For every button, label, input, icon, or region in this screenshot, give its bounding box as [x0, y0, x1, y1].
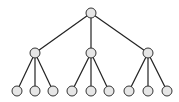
- tree-edge-root-c3: [91, 13, 148, 53]
- tree-node-l4: [67, 86, 77, 96]
- tree-node-l7: [124, 86, 134, 96]
- tree-edge-c3-l9: [148, 53, 167, 91]
- tree-node-root: [86, 8, 96, 18]
- tree-node-l6: [104, 86, 114, 96]
- tree-edge-c3-l7: [129, 53, 148, 91]
- tree-edge-c1-l1: [17, 53, 35, 91]
- tree-diagram: [0, 0, 179, 102]
- tree-node-l8: [143, 86, 153, 96]
- tree-node-l9: [162, 86, 172, 96]
- tree-node-l1: [12, 86, 22, 96]
- tree-node-c2: [86, 48, 96, 58]
- tree-node-l5: [86, 86, 96, 96]
- tree-edge-root-c1: [35, 13, 91, 53]
- tree-edge-c2-l4: [72, 53, 91, 91]
- tree-edge-c2-l6: [91, 53, 109, 91]
- tree-node-c3: [143, 48, 153, 58]
- tree-node-l3: [48, 86, 58, 96]
- tree-edge-c1-l3: [35, 53, 53, 91]
- tree-node-l2: [30, 86, 40, 96]
- tree-node-c1: [30, 48, 40, 58]
